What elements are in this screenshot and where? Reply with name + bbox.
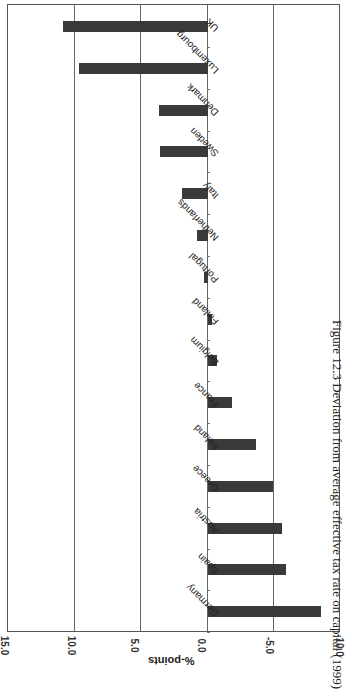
gridline [74,5,75,631]
tick-label: -5.0 [265,637,276,654]
bar [208,606,321,617]
axis-tick [207,298,210,299]
bar [160,146,208,157]
axis-tick [207,465,210,466]
tick-label: 5.0 [130,639,141,653]
axis-tick [207,340,210,341]
tick-label: 0.0 [196,639,207,653]
bar [63,21,208,32]
axis-tick [207,590,210,591]
axis-tick [207,507,210,508]
axis-tick [207,172,210,173]
axis-tick [207,256,210,257]
bar [79,63,208,74]
tick-label: 10.0 [66,636,77,655]
plot-area [7,4,340,632]
axis-tick [207,214,210,215]
axis-title: %-points [148,655,194,667]
axis-tick [207,131,210,132]
tick-label: -10.0 [334,634,345,657]
gridline [273,5,274,631]
axis-tick [207,632,210,633]
gridline [140,5,141,631]
axis-tick [207,549,210,550]
axis-tick [207,423,210,424]
axis-tick [207,47,210,48]
axis-tick [207,381,210,382]
tick-label: 15.0 [0,636,10,655]
axis-tick [207,89,210,90]
